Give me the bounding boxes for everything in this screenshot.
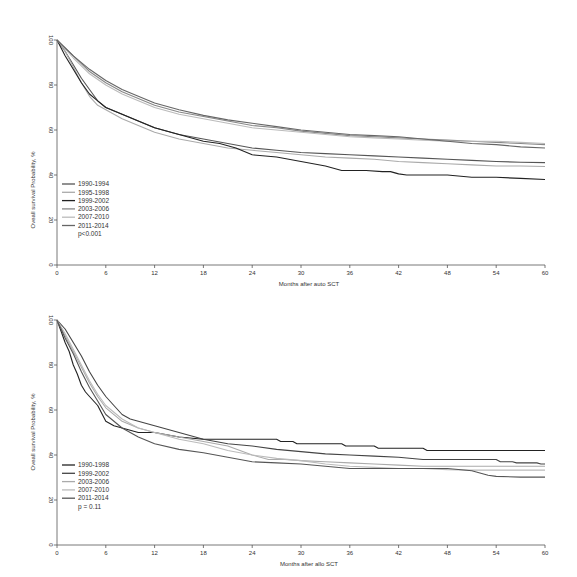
legend-label: 2003-2006	[78, 205, 109, 212]
survival-curve-2007-2010	[57, 320, 545, 470]
survival-curve-2011-2014	[57, 320, 545, 477]
legend-label: 2007-2010	[78, 486, 109, 493]
y-axis-title: Oveall survival Probability, %	[30, 151, 36, 229]
y-tick-label: 100	[48, 315, 54, 326]
x-tick-label: 60	[542, 270, 549, 276]
x-tick-label: 18	[200, 270, 207, 276]
legend-label: 2011-2014	[78, 494, 109, 501]
legend-label: 1990-1994	[78, 180, 109, 187]
y-tick-label: 40	[48, 172, 54, 179]
x-tick-label: 0	[55, 550, 59, 556]
x-tick-label: 36	[346, 550, 353, 556]
x-tick-label: 30	[298, 550, 305, 556]
survival-curve-2007-2010	[57, 40, 545, 144]
allo-sct-survival-chart: 02040608010006121824303642485460Months a…	[30, 315, 549, 567]
auto-sct-survival-chart: 02040608010006121824303642485460Months a…	[30, 35, 549, 287]
legend-label: 2011-2014	[78, 222, 109, 229]
y-tick-label: 40	[48, 452, 54, 459]
x-axis-title: Months after allo SCT	[280, 561, 338, 567]
y-tick-label: 60	[48, 407, 54, 414]
y-tick-label: 20	[48, 217, 54, 224]
x-tick-label: 0	[55, 270, 59, 276]
survival-curve-1995-1998	[57, 40, 545, 167]
survival-curve-1990-1994	[57, 40, 545, 163]
legend: 1990-19981999-20022003-20062007-20102011…	[62, 461, 109, 511]
y-axis-title: Oveall survival Probability, %	[30, 393, 36, 471]
legend-label: 2003-2006	[78, 478, 109, 485]
x-tick-label: 30	[298, 270, 305, 276]
x-tick-label: 6	[104, 550, 108, 556]
survival-curve-1999-2002	[57, 320, 545, 464]
x-tick-label: 54	[493, 550, 500, 556]
x-tick-label: 24	[249, 270, 256, 276]
y-tick-label: 80	[48, 362, 54, 369]
survival-curve-1990-1998	[57, 320, 545, 451]
legend: 1990-19941995-19981999-20022003-20062007…	[62, 180, 109, 238]
x-tick-label: 48	[444, 270, 451, 276]
x-tick-label: 36	[346, 270, 353, 276]
y-tick-label: 20	[48, 497, 54, 504]
x-tick-label: 12	[151, 550, 158, 556]
x-tick-label: 24	[249, 550, 256, 556]
survival-curve-2003-2006	[57, 40, 545, 145]
legend-label: 1995-1998	[78, 189, 109, 196]
y-tick-label: 60	[48, 127, 54, 134]
legend-label: 1999-2002	[78, 197, 109, 204]
x-tick-label: 18	[200, 550, 207, 556]
x-tick-label: 6	[104, 270, 108, 276]
survival-curve-1999-2002	[57, 40, 545, 180]
survival-curve-2003-2006	[57, 320, 545, 466]
x-tick-label: 60	[542, 550, 549, 556]
x-tick-label: 54	[493, 270, 500, 276]
x-tick-label: 12	[151, 270, 158, 276]
legend-label: 1999-2002	[78, 470, 109, 477]
y-tick-label: 100	[48, 35, 54, 46]
legend-label: 1990-1998	[78, 461, 109, 468]
p-value-annotation: p<0.001	[78, 230, 102, 238]
y-tick-label: 80	[48, 82, 54, 89]
legend-label: 2007-2010	[78, 213, 109, 220]
x-tick-label: 42	[395, 270, 402, 276]
x-axis-title: Months after auto SCT	[279, 281, 340, 287]
x-tick-label: 48	[444, 550, 451, 556]
x-tick-label: 42	[395, 550, 402, 556]
p-value-annotation: p = 0.11	[78, 503, 102, 511]
y-tick-label: 0	[48, 543, 54, 547]
y-tick-label: 0	[48, 263, 54, 267]
survival-charts: 02040608010006121824303642485460Months a…	[0, 0, 577, 577]
